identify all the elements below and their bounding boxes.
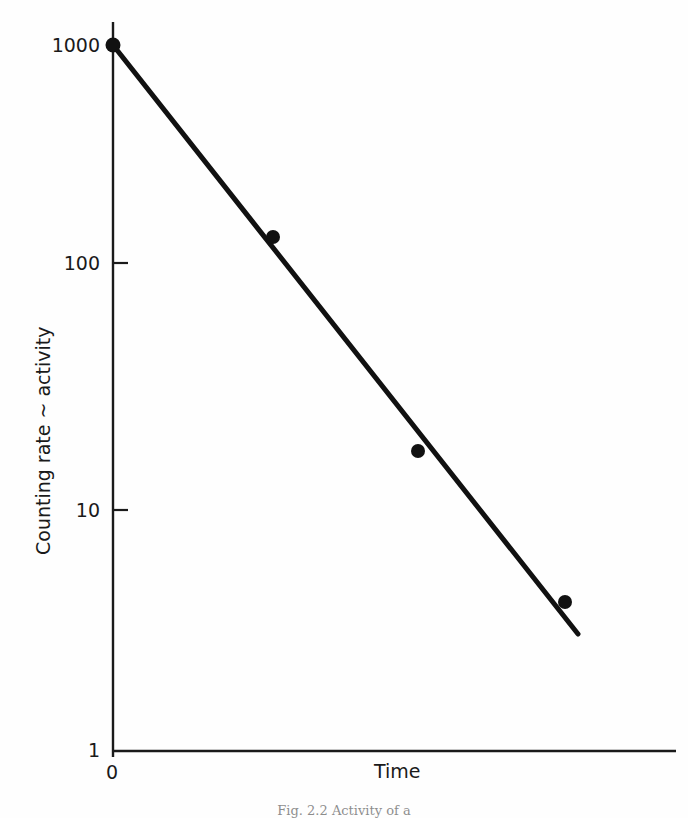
figure-caption: Fig. 2.2 Activity of a — [0, 803, 688, 818]
y-tick-label-100: 100 — [28, 252, 100, 274]
y-axis-title: Counting rate ~ activity — [32, 327, 54, 555]
data-point-marker — [266, 230, 280, 244]
decay-fit-line — [113, 45, 578, 634]
x-axis-title: Time — [374, 760, 421, 782]
data-point-marker — [106, 38, 121, 53]
data-point-marker — [558, 595, 572, 609]
y-tick-label-1: 1 — [28, 739, 100, 761]
data-point-marker — [411, 444, 425, 458]
y-tick-label-1000: 1000 — [28, 34, 100, 56]
x-origin-label: 0 — [106, 761, 118, 783]
